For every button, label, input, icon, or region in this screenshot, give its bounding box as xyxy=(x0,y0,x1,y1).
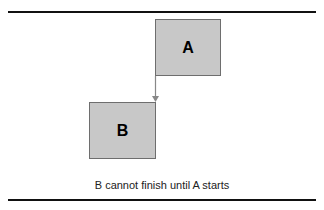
bottom-rule xyxy=(8,199,316,201)
caption: B cannot finish until A starts xyxy=(0,179,324,191)
box-b: B xyxy=(89,102,156,159)
box-b-label: B xyxy=(117,122,129,140)
